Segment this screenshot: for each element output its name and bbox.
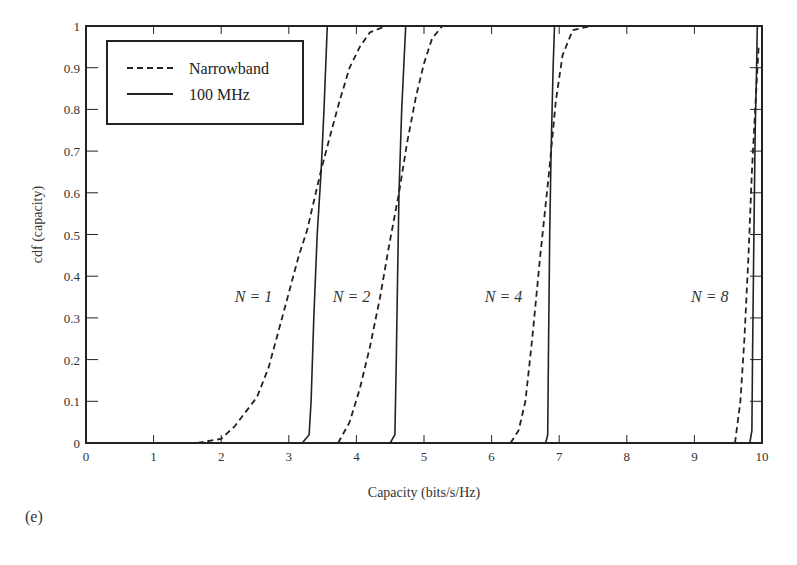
x-tick-label: 7 — [556, 449, 563, 464]
legend-box — [107, 41, 303, 124]
narrowband-curve — [511, 26, 592, 443]
y-tick-label: 0.5 — [64, 228, 80, 243]
x-axis-label: Capacity (bits/s/Hz) — [368, 485, 481, 501]
narrowband-curve — [338, 26, 442, 443]
cdf-capacity-chart: 01234567891000.10.20.30.40.50.60.70.80.9… — [0, 0, 797, 565]
y-tick-label: 0.1 — [64, 394, 80, 409]
legend-label: 100 MHz — [189, 86, 250, 103]
x-tick-label: 4 — [353, 449, 360, 464]
y-tick-label: 0.9 — [64, 61, 80, 76]
curve-annotation: N = 8 — [690, 288, 728, 305]
x-tick-label: 5 — [421, 449, 428, 464]
x-tick-label: 9 — [691, 449, 698, 464]
y-tick-label: 0.4 — [64, 269, 81, 284]
panel-label: (e) — [25, 508, 43, 526]
x-tick-label: 2 — [218, 449, 225, 464]
x-tick-label: 3 — [286, 449, 293, 464]
curve-annotation: N = 1 — [234, 288, 272, 305]
wideband-100mhz-curve — [390, 26, 406, 443]
y-tick-label: 0.7 — [64, 144, 81, 159]
curve-annotation: N = 4 — [484, 288, 522, 305]
y-tick-label: 0.2 — [64, 353, 80, 368]
y-tick-label: 1 — [74, 19, 81, 34]
wideband-100mhz-curve — [546, 26, 555, 443]
y-axis-label: cdf (capacity) — [30, 185, 46, 263]
x-tick-label: 10 — [756, 449, 769, 464]
legend-label: Narrowband — [189, 60, 269, 77]
y-tick-label: 0.3 — [64, 311, 80, 326]
y-tick-label: 0 — [74, 436, 81, 451]
y-tick-label: 0.6 — [64, 186, 81, 201]
x-tick-label: 1 — [150, 449, 157, 464]
wideband-100mhz-curve — [302, 26, 327, 443]
x-tick-label: 8 — [624, 449, 631, 464]
y-tick-label: 0.8 — [64, 102, 80, 117]
x-tick-label: 6 — [488, 449, 495, 464]
x-tick-label: 0 — [83, 449, 90, 464]
curve-annotation: N = 2 — [332, 288, 370, 305]
